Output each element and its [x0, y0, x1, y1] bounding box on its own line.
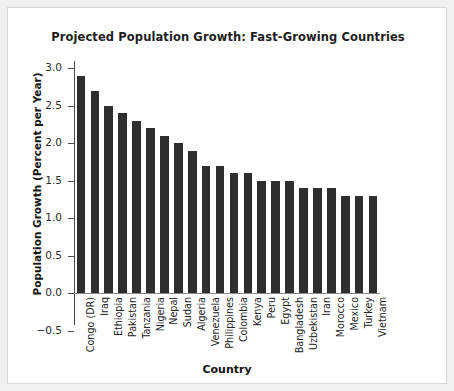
bar[interactable]: [369, 196, 378, 294]
x-axis-tick-label: Peru: [266, 297, 277, 318]
y-axis-tick-label: 3.0: [10, 61, 62, 73]
x-axis-tick-label: Tanzania: [141, 297, 152, 339]
bar[interactable]: [132, 121, 141, 294]
bar[interactable]: [146, 128, 155, 293]
x-axis-tick-label: Congo (DR): [85, 297, 96, 352]
x-axis-tick-label: Egypt: [280, 297, 291, 325]
bar[interactable]: [355, 196, 364, 294]
bar[interactable]: [230, 173, 239, 293]
bar[interactable]: [271, 181, 280, 294]
x-axis-tick-label: Colombia: [238, 297, 249, 342]
y-axis-tick-label: 2.5: [10, 99, 62, 111]
bar[interactable]: [104, 106, 113, 294]
y-axis-tick-label: 2.0: [10, 136, 62, 148]
y-axis-tick-label: 1.0: [10, 211, 62, 223]
bar[interactable]: [77, 76, 86, 294]
x-axis-tick-label: Ethiopia: [113, 297, 124, 336]
x-axis-tick-label: Vietnam: [377, 297, 388, 337]
x-axis-tick-label: Uzbekistan: [308, 297, 319, 350]
x-axis-tick-label: Sudan: [182, 297, 193, 327]
bar[interactable]: [299, 188, 308, 293]
bar[interactable]: [174, 143, 183, 293]
x-axis-tick-label: Kenya: [252, 297, 263, 326]
bar[interactable]: [313, 188, 322, 293]
chart-title: Projected Population Growth: Fast-Growin…: [8, 30, 448, 44]
x-axis-tick-label: Venezuela: [210, 297, 221, 346]
bar[interactable]: [118, 113, 127, 293]
y-axis-tick-label: 0.5: [10, 249, 62, 261]
x-axis-tick-label: Nepal: [168, 297, 179, 325]
bar[interactable]: [341, 196, 350, 294]
figure-card: Projected Population Growth: Fast-Growin…: [7, 7, 447, 384]
x-axis-tick-label: Morocco: [335, 297, 346, 337]
bar[interactable]: [257, 181, 266, 294]
bar[interactable]: [327, 188, 336, 293]
x-axis-tick-label: Iraq: [99, 297, 110, 316]
y-axis-tick-label: 0.0: [10, 286, 62, 298]
y-axis-tick: [68, 331, 74, 332]
plot-area: [74, 61, 380, 325]
x-axis-tick-label: Pakistan: [127, 297, 138, 337]
y-axis-tick-label: 1.5: [10, 174, 62, 186]
bar[interactable]: [188, 151, 197, 294]
bar[interactable]: [244, 173, 253, 293]
bar[interactable]: [216, 166, 225, 294]
bar[interactable]: [91, 91, 100, 294]
x-axis-tick-label: Algeria: [196, 297, 207, 331]
y-axis-tick-label: −0.5: [10, 324, 62, 336]
x-axis-title: Country: [74, 363, 380, 376]
bar[interactable]: [285, 181, 294, 294]
x-axis-tick-label: Philippines: [224, 297, 235, 349]
bar[interactable]: [202, 166, 211, 294]
x-axis-tick-label: Nigeria: [155, 297, 166, 331]
x-axis-tick-label: Bangladesh: [294, 297, 305, 353]
x-axis-tick-label: Mexico: [349, 297, 360, 331]
x-axis-tick-label: Iran: [321, 297, 332, 316]
x-axis-tick-label: Turkey: [363, 297, 374, 328]
bar[interactable]: [160, 136, 169, 294]
